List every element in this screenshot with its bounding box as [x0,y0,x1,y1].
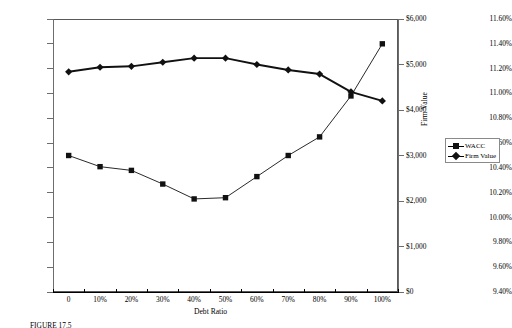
square-data-point [191,196,196,201]
diamond-marker-icon [448,151,464,161]
square-data-point [129,168,134,173]
legend-label-firm-value: Firm Value [464,151,496,161]
figure-caption: FIGURE 17.5 [30,321,71,328]
square-data-point [223,195,228,200]
diamond-data-point [159,59,166,66]
square-data-point [97,164,102,169]
legend-label-wacc: WACC [464,141,485,151]
series-wacc [66,41,385,202]
legend-item-wacc: WACC [448,141,497,151]
series-firm-value [65,55,386,105]
square-data-point [66,153,71,158]
diamond-data-point [253,61,260,68]
chart-legend: WACC Firm Value [445,138,500,163]
square-data-point [160,181,165,186]
square-data-point [254,174,259,179]
square-data-point [286,153,291,158]
square-data-point [317,134,322,139]
diamond-data-point [128,63,135,70]
square-marker-icon [448,141,464,151]
diamond-data-point [285,66,292,73]
diamond-data-point [65,68,72,75]
diamond-data-point [191,55,198,62]
data-series-layer [0,0,512,328]
diamond-data-point [222,55,229,62]
diamond-data-point [379,97,386,104]
legend-item-firm-value: Firm Value [448,151,497,161]
diamond-data-point [96,64,103,71]
square-data-point [380,41,385,46]
chart-figure: 9.40%9.60%9.80%10.00%10.20%10.40%10.60%1… [0,0,512,328]
